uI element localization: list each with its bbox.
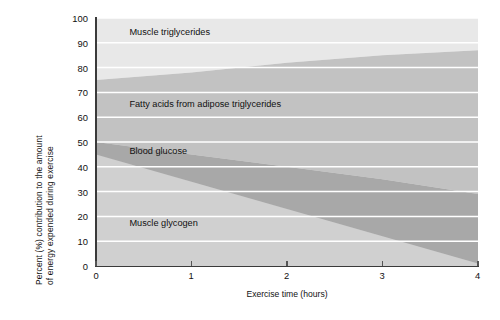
series-label-muscle-triglycerides: Muscle triglycerides <box>129 27 210 37</box>
y-tick-60: 60 <box>58 112 88 123</box>
y-tick-40: 40 <box>58 162 88 173</box>
x-tick-4: 4 <box>468 270 488 281</box>
plot-area: Muscle triglycerides Fatty acids from ad… <box>96 18 478 266</box>
x-axis-title: Exercise time (hours) <box>96 289 478 299</box>
series-label-blood-glucose: Blood glucose <box>129 146 187 156</box>
series-label-fatty-acids: Fatty acids from adipose triglycerides <box>129 99 281 109</box>
series-label-muscle-glycogen: Muscle glycogen <box>129 218 197 228</box>
x-tickmark-1 <box>191 261 192 266</box>
y-axis-line <box>95 17 97 267</box>
stacked-area-svg <box>96 18 478 266</box>
y-tick-90: 90 <box>58 38 88 49</box>
y-tick-80: 80 <box>58 63 88 74</box>
y-axis-title-line-2: of energy expended during exercise <box>45 146 55 285</box>
y-axis-title-line-1: Percent (%) contribution to the amount <box>34 135 44 285</box>
x-tickmark-2 <box>286 261 287 266</box>
x-tickmark-4 <box>477 261 478 266</box>
y-axis-title: Percent (%) contribution to the amount o… <box>0 0 58 300</box>
y-tick-70: 70 <box>58 87 88 98</box>
y-tick-100: 100 <box>58 13 88 24</box>
y-tick-30: 30 <box>58 187 88 198</box>
x-tick-2: 2 <box>277 270 297 281</box>
y-tick-20: 20 <box>58 211 88 222</box>
x-tick-3: 3 <box>372 270 392 281</box>
x-tickmark-3 <box>382 261 383 266</box>
y-tick-10: 10 <box>58 236 88 247</box>
x-tick-0: 0 <box>86 270 106 281</box>
x-axis-line <box>95 266 479 268</box>
chart-figure: Percent (%) contribution to the amount o… <box>0 0 500 320</box>
y-tick-0: 0 <box>58 261 88 272</box>
y-tick-50: 50 <box>58 137 88 148</box>
x-tick-1: 1 <box>181 270 201 281</box>
x-tickmark-0 <box>95 261 96 266</box>
